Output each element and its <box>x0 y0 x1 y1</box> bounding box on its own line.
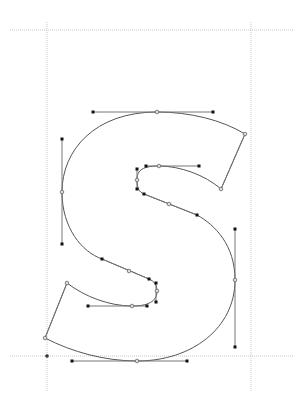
control-point-handle[interactable] <box>61 138 64 141</box>
oncurve-point[interactable] <box>43 336 47 340</box>
origin-point-icon <box>45 354 49 358</box>
control-point-handle[interactable] <box>101 258 104 261</box>
origin-marker <box>45 354 49 358</box>
oncurve-point[interactable] <box>155 110 159 114</box>
control-point-handle[interactable] <box>148 278 151 281</box>
control-point-handle[interactable] <box>61 243 64 246</box>
control-point-handle[interactable] <box>198 165 201 168</box>
control-point-handle[interactable] <box>71 360 74 363</box>
handle-line <box>221 134 245 189</box>
control-point-handle[interactable] <box>87 305 90 308</box>
oncurve-point[interactable] <box>135 178 139 182</box>
handle-line <box>102 259 149 279</box>
control-point-handle[interactable] <box>155 282 158 285</box>
oncurve-points[interactable] <box>43 110 247 363</box>
glyph-edit-canvas[interactable] <box>0 0 294 418</box>
handle-line <box>45 283 67 338</box>
oncurve-point[interactable] <box>130 304 134 308</box>
oncurve-point[interactable] <box>135 359 139 363</box>
control-point-handle[interactable] <box>212 111 215 114</box>
control-point-handle[interactable] <box>136 168 139 171</box>
oncurve-point[interactable] <box>157 164 161 168</box>
control-point-handle[interactable] <box>234 228 237 231</box>
control-point-handle[interactable] <box>155 301 158 304</box>
control-point-handle[interactable] <box>92 111 95 114</box>
control-point-handle[interactable] <box>136 188 139 191</box>
control-point-handle[interactable] <box>196 214 199 217</box>
glyph-outline-s[interactable] <box>45 112 245 361</box>
oncurve-point[interactable] <box>219 187 223 191</box>
oncurve-point[interactable] <box>155 289 159 293</box>
guide-lines <box>10 22 294 392</box>
oncurve-point[interactable] <box>127 269 131 273</box>
oncurve-point[interactable] <box>167 202 171 206</box>
control-point-handle[interactable] <box>143 193 146 196</box>
oncurve-point[interactable] <box>60 190 64 194</box>
offcurve-control-points[interactable] <box>61 111 237 363</box>
control-point-handle[interactable] <box>186 360 189 363</box>
oncurve-point[interactable] <box>243 132 247 136</box>
control-point-handle[interactable] <box>234 346 237 349</box>
oncurve-point[interactable] <box>65 281 69 285</box>
control-point-handle[interactable] <box>146 305 149 308</box>
control-point-handle[interactable] <box>145 165 148 168</box>
oncurve-point[interactable] <box>233 278 237 282</box>
